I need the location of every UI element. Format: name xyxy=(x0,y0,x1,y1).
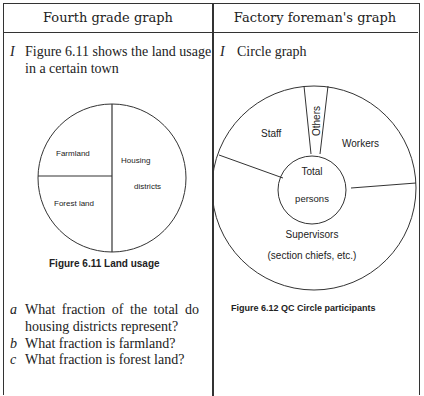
question-b-line-1: What fraction is farmland? xyxy=(25,335,175,352)
question-b-letter: b xyxy=(10,335,17,352)
label-section-chiefs: (section chiefs, etc.) xyxy=(268,250,357,261)
label-farmland: Farmland xyxy=(56,149,90,158)
label-workers: Workers xyxy=(342,138,379,149)
label-districts: districts xyxy=(134,182,161,191)
question-a-letter: a xyxy=(10,301,17,318)
qc-circle-pie-chart: Staff Others Workers Total persons Super… xyxy=(212,0,424,300)
label-supervisors: Supervisors xyxy=(286,229,339,240)
label-total: Total xyxy=(301,166,322,177)
label-others: Others xyxy=(311,106,322,136)
label-forest-land: Forest land xyxy=(54,199,94,208)
question-a-line-1: What fraction of the total do xyxy=(25,301,199,318)
label-housing: Housing xyxy=(121,156,150,165)
figure-6-12-caption: Figure 6.12 QC Circle participants xyxy=(231,303,376,313)
question-c-letter: c xyxy=(10,351,16,368)
question-a-line-2: housing districts represent? xyxy=(25,318,178,335)
land-usage-pie-chart: Farmland Housing districts Forest land xyxy=(0,0,212,300)
label-staff: Staff xyxy=(261,128,282,139)
question-c-line-1: What fraction is forest land? xyxy=(25,351,184,368)
figure-6-11-caption: Figure 6.11 Land usage xyxy=(49,258,160,269)
label-persons: persons xyxy=(295,193,329,204)
